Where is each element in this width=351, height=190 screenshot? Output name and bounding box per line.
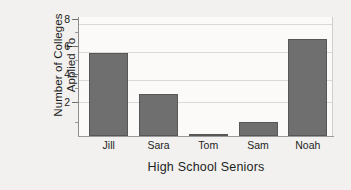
y-tick-label-4: 4 (48, 69, 70, 79)
category-labels: Jill Sara Tom Sam Noah (79, 139, 333, 153)
bar-chart-figure: Number of Colleges Applied To 2 4 (0, 0, 351, 190)
y-tick-major-8 (72, 19, 78, 20)
bar-sara[interactable] (139, 94, 178, 136)
y-tick-label-8: 8 (48, 14, 70, 24)
bar-slot (288, 17, 327, 136)
y-tick-major-2 (72, 102, 78, 103)
x-tick-label-sam: Sam (239, 139, 278, 151)
y-tick-major-6 (72, 46, 78, 47)
bar-jill[interactable] (89, 53, 128, 136)
y-tick-label-6: 6 (48, 41, 70, 51)
x-tick-label-tom: Tom (189, 139, 228, 151)
bar-noah[interactable] (288, 39, 327, 136)
y-tick-minor-3 (75, 88, 78, 89)
bars-layer (79, 17, 333, 136)
bar-sam[interactable] (239, 122, 278, 136)
bar-slot (189, 17, 228, 136)
y-tick-label-2: 2 (48, 97, 70, 107)
y-tick-minor-7 (75, 32, 78, 33)
x-axis-line (78, 136, 334, 137)
y-tick-minor-1 (75, 122, 78, 123)
x-tick-label-sara: Sara (139, 139, 178, 151)
y-tick-major-4 (72, 74, 78, 75)
y-tick-minor-5 (75, 60, 78, 61)
bar-slot (139, 17, 178, 136)
x-tick-label-noah: Noah (288, 139, 327, 151)
bar-slot (89, 17, 128, 136)
x-axis-title: High School Seniors (78, 160, 334, 174)
x-tick-label-jill: Jill (89, 139, 128, 151)
bar-slot (239, 17, 278, 136)
